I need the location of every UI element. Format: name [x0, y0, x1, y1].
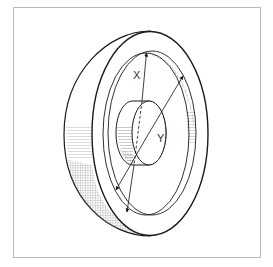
label-y: Y: [157, 132, 165, 144]
label-x: X: [133, 69, 141, 81]
grinding-wheel-diagram: X Y: [0, 0, 273, 267]
